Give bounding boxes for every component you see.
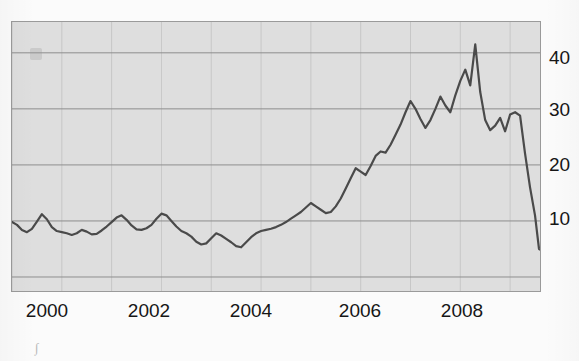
x-axis-tick-label: 2002	[128, 300, 170, 322]
horizontal-gridlines	[12, 53, 540, 277]
plot-svg	[12, 22, 540, 291]
chart-root: 20002002200420062008 40302010 ∫	[0, 0, 579, 361]
x-axis-tick-label: 2004	[230, 300, 272, 322]
x-axis-tick-label: 2006	[339, 300, 381, 322]
y-axis-tick-label: 10	[549, 208, 570, 230]
y-axis-tick-label: 40	[549, 47, 570, 69]
data-series-line	[12, 44, 540, 258]
scan-artifact	[30, 48, 42, 60]
page-artifact-mark: ∫	[35, 340, 45, 352]
x-axis-tick-label: 2000	[26, 300, 68, 322]
plot-area	[11, 21, 541, 292]
y-axis-tick-label: 20	[549, 154, 570, 176]
x-axis-tick-label: 2008	[441, 300, 483, 322]
y-axis-tick-label: 30	[549, 99, 570, 121]
vertical-gridlines	[12, 22, 510, 291]
